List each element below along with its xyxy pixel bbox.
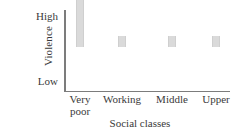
- bar: [118, 36, 126, 47]
- x-axis-title: Social classes: [0, 117, 240, 129]
- x-tick-label-line1: Upper: [202, 93, 230, 105]
- bar-chart-figure: Violence High Low VerypoorWorkingMiddleU…: [0, 0, 240, 137]
- x-tick-label: Upper: [179, 94, 240, 106]
- x-tick-label-line2: poor: [43, 106, 117, 118]
- x-axis-title-text: Social classes: [110, 117, 171, 129]
- bar: [76, 0, 84, 47]
- bar: [212, 36, 220, 47]
- plot-area: [0, 0, 240, 92]
- bar: [168, 36, 176, 47]
